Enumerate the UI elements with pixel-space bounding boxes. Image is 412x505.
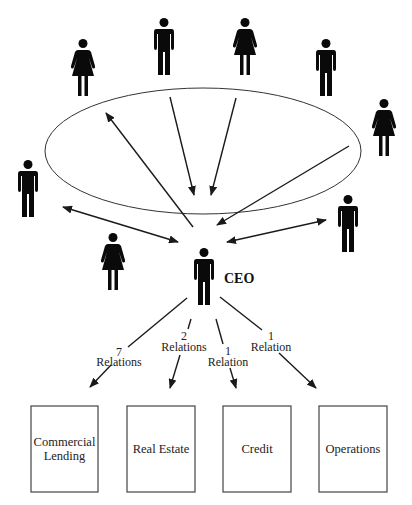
relation-label: Relations [96,355,142,369]
arrow-group-to-ceo [211,98,236,195]
woman-icon [233,18,257,75]
man-icon [18,160,38,217]
relation-label: Relations [161,340,207,354]
department-label: Operations [326,442,381,456]
man-icon [338,195,358,252]
ceo-man-icon [194,248,214,305]
arrow-group-to-ceo [170,97,194,195]
department-label: Credit [241,442,273,456]
department-label: Real Estate [133,442,190,456]
ceo-relations-diagram: CEO 7 Relations 2 Relations 1 Relation 1… [0,0,412,505]
ceo-label: CEO [224,271,254,286]
department-boxes: Commercial Lending Real Estate Credit Op… [31,406,387,492]
arrow-segment [220,297,262,330]
woman-icon [71,39,95,96]
department-arrows: 7 Relations 2 Relations 1 Relation 1 Rel… [90,297,316,388]
people-group [18,18,396,305]
arrow-segment [216,319,223,344]
arrow-group-to-ceo [217,146,349,225]
peer-group-ellipse [45,88,361,214]
arrow-ceo-to-group [106,113,193,227]
woman-icon [372,99,396,156]
relation-label: Relation [208,355,249,369]
arrow-to-credit [230,368,236,388]
arrow-segment [188,319,191,329]
peer-arrows [63,97,349,242]
arrow-to-real-estate [170,355,180,388]
relation-label: Relation [251,340,292,354]
department-label: Lending [44,449,86,463]
department-label: Commercial [34,435,96,449]
double-arrow-right [227,220,326,242]
woman-icon [101,233,125,290]
man-icon [154,18,174,75]
arrow-to-operations [279,353,316,388]
man-icon [316,39,336,96]
